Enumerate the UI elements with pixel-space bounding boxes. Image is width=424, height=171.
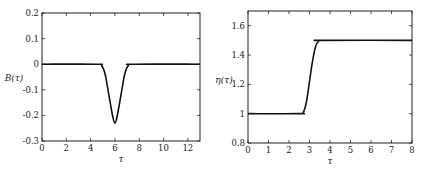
x-tick-label: 5 [348, 145, 353, 155]
x-tick-label: 6 [112, 143, 117, 153]
y-tick-label: -0.1 [23, 85, 39, 95]
x-tick-label: 12 [182, 143, 193, 153]
x-tick-label: 2 [286, 145, 291, 155]
x-axis-label: τ [119, 154, 125, 164]
x-tick-label: 8 [137, 143, 142, 153]
x-tick-label: 2 [64, 143, 69, 153]
y-tick-label: 1.4 [231, 50, 245, 60]
y-tick-label: 0 [34, 59, 39, 69]
series-line [248, 40, 412, 113]
x-tick-label: 7 [389, 145, 394, 155]
x-tick-label: 4 [88, 143, 93, 153]
y-tick-label: 0.2 [25, 8, 39, 18]
plot-frame [248, 11, 412, 143]
series-line [42, 64, 200, 123]
x-tick-label: 1 [266, 145, 271, 155]
y-axis-label: η(τ) [215, 75, 233, 85]
y-tick-label: -0.2 [23, 110, 39, 120]
x-tick-label: 6 [368, 145, 373, 155]
y-tick-label: 0.1 [25, 34, 39, 44]
plot-frame [42, 13, 200, 141]
y-tick-label: 1 [240, 109, 245, 119]
figure: 024681012-0.3-0.2-0.100.10.2τB(τ)0123456… [0, 0, 424, 171]
y-tick-label: 1.6 [231, 21, 245, 31]
y-tick-label: 1.2 [231, 79, 245, 89]
x-tick-label: 0 [39, 143, 44, 153]
chart-eta-tau: 0123456780.811.21.41.6τη(τ) [215, 11, 414, 166]
x-tick-label: 8 [409, 145, 414, 155]
x-axis-label: τ [328, 156, 334, 166]
x-tick-label: 0 [245, 145, 250, 155]
y-axis-label: B(τ) [4, 73, 24, 83]
x-tick-label: 3 [307, 145, 312, 155]
y-tick-label: 0.8 [231, 138, 245, 148]
x-tick-label: 4 [327, 145, 332, 155]
x-tick-label: 10 [158, 143, 169, 153]
chart-b-tau: 024681012-0.3-0.2-0.100.10.2τB(τ) [4, 8, 200, 164]
y-tick-label: -0.3 [23, 136, 39, 146]
